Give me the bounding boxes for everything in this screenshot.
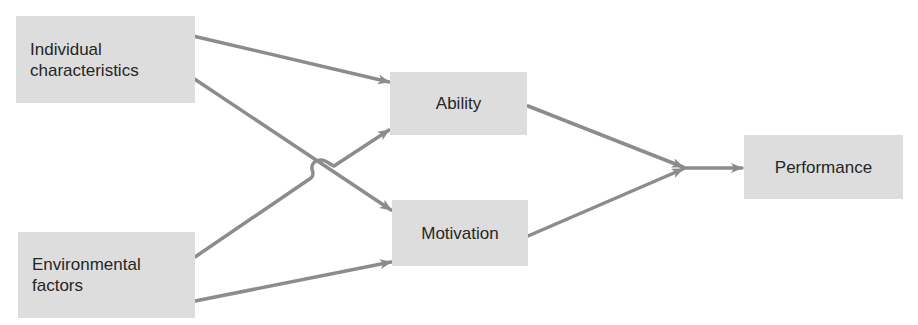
- edge-environmental-to-motivation: [195, 262, 391, 301]
- node-label: Performance: [775, 157, 872, 178]
- edge-individual-to-ability: [193, 36, 389, 82]
- node-performance: Performance: [744, 135, 903, 199]
- edge-environmental-to-ability: [195, 130, 389, 257]
- edge-motivation-to-junction: [528, 169, 683, 236]
- node-individual-characteristics: Individual characteristics: [16, 16, 195, 103]
- node-label: Individual characteristics: [30, 39, 139, 81]
- node-label: Environmental factors: [32, 254, 141, 296]
- node-label: Ability: [436, 93, 481, 114]
- node-motivation: Motivation: [392, 200, 528, 266]
- edge-ability-to-junction: [528, 106, 683, 167]
- node-environmental-factors: Environmental factors: [18, 232, 195, 318]
- node-ability: Ability: [390, 72, 527, 135]
- node-label: Motivation: [421, 223, 498, 244]
- diagram-canvas: Individual characteristics Environmental…: [0, 0, 918, 325]
